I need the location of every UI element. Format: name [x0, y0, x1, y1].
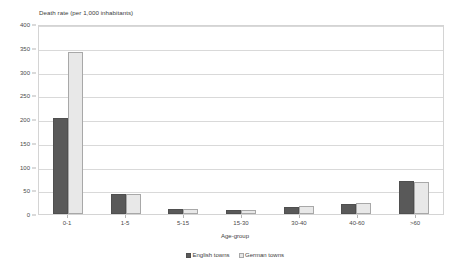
y-axis-tick-label: 100 — [20, 165, 30, 171]
chart-container: Death rate (per 1,000 inhabitants) 40035… — [0, 0, 470, 270]
y-axis-tick-label: 0 — [27, 212, 30, 218]
y-axis-tick-label: 300 — [20, 70, 30, 76]
y-axis-tick-mark — [32, 48, 36, 49]
bar-group — [212, 26, 270, 214]
bar-group — [154, 26, 212, 214]
bar-group — [97, 26, 155, 214]
y-axis-tick-label: 50 — [23, 188, 30, 194]
chart-title: Death rate (per 1,000 inhabitants) — [39, 9, 133, 17]
x-axis-tick-mark — [67, 215, 68, 218]
x-axis-tick-label: 0-1 — [38, 220, 96, 227]
bar-group — [39, 26, 97, 214]
y-axis-tick-label: 350 — [20, 46, 30, 52]
y-axis-tick-mark — [32, 72, 36, 73]
x-axis-tick: 40-60 — [328, 215, 386, 229]
bar-english[interactable] — [399, 181, 414, 214]
x-axis-tick-label: 40-60 — [328, 220, 386, 227]
x-axis-tick-label: 1-5 — [96, 220, 154, 227]
bar-german[interactable] — [68, 52, 83, 214]
y-axis: 400350300250200150100500 — [0, 25, 36, 215]
bar-german[interactable] — [241, 210, 256, 214]
x-axis-tick-label: >60 — [386, 220, 444, 227]
legend-entry[interactable]: English towns — [186, 252, 230, 259]
bar-german[interactable] — [126, 194, 141, 214]
bar-german[interactable] — [299, 206, 314, 214]
x-axis-tick-mark — [125, 215, 126, 218]
x-axis-tick-label: 30-40 — [270, 220, 328, 227]
bar-group — [328, 26, 386, 214]
y-axis-tick-label: 250 — [20, 93, 30, 99]
x-axis-tick-mark — [415, 215, 416, 218]
bar-english[interactable] — [226, 210, 241, 214]
y-axis-tick-mark — [32, 215, 36, 216]
x-axis-tick: 5-15 — [154, 215, 212, 229]
bar-group — [385, 26, 443, 214]
x-axis-tick: >60 — [386, 215, 444, 229]
y-axis-tick-mark — [32, 25, 36, 26]
y-axis-tick-mark — [32, 120, 36, 121]
legend-label: English towns — [192, 252, 229, 259]
x-axis-tick-label: 5-15 — [154, 220, 212, 227]
x-axis-tick: 30-40 — [270, 215, 328, 229]
bar-german[interactable] — [414, 182, 429, 214]
y-axis-tick-mark — [32, 143, 36, 144]
y-axis-tick-label: 400 — [20, 22, 30, 28]
x-axis-tick-label: 15-30 — [212, 220, 270, 227]
y-axis-tick-mark — [32, 96, 36, 97]
bar-english[interactable] — [111, 194, 126, 214]
x-axis-tick: 15-30 — [212, 215, 270, 229]
x-axis-tick-mark — [357, 215, 358, 218]
x-axis-title: Age-group — [0, 233, 470, 240]
x-axis-tick-mark — [299, 215, 300, 218]
x-axis: 0-11-55-1515-3030-4040-60>60 — [38, 215, 444, 229]
bar-english[interactable] — [53, 118, 68, 214]
y-axis-tick-mark — [32, 167, 36, 168]
y-axis-tick-label: 200 — [20, 117, 30, 123]
legend-swatch-icon — [186, 253, 191, 258]
chart-legend: English townsGerman towns — [0, 252, 470, 259]
bar-german[interactable] — [356, 203, 371, 214]
legend-entry[interactable]: German towns — [239, 252, 285, 259]
bar-group — [270, 26, 328, 214]
legend-swatch-icon — [239, 253, 244, 258]
x-axis-tick-mark — [183, 215, 184, 218]
bars-layer — [39, 26, 443, 214]
y-axis-tick-label: 150 — [20, 141, 30, 147]
x-axis-tick: 0-1 — [38, 215, 96, 229]
x-axis-tick-mark — [241, 215, 242, 218]
bar-english[interactable] — [341, 204, 356, 214]
plot-area — [38, 25, 444, 215]
bar-english[interactable] — [284, 207, 299, 214]
bar-german[interactable] — [183, 209, 198, 214]
bar-english[interactable] — [168, 209, 183, 214]
legend-label: German towns — [245, 252, 284, 259]
x-axis-tick: 1-5 — [96, 215, 154, 229]
y-axis-tick-mark — [32, 191, 36, 192]
